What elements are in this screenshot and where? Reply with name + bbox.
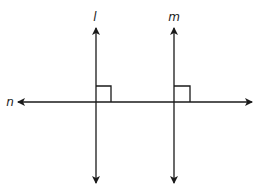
perpendicular-lines-diagram: l m n xyxy=(0,0,261,187)
label-m: m xyxy=(168,10,180,24)
label-l: l xyxy=(93,10,97,24)
right-angle-mark-l xyxy=(96,86,111,102)
right-angle-mark-m xyxy=(174,86,190,102)
label-n: n xyxy=(6,95,14,109)
